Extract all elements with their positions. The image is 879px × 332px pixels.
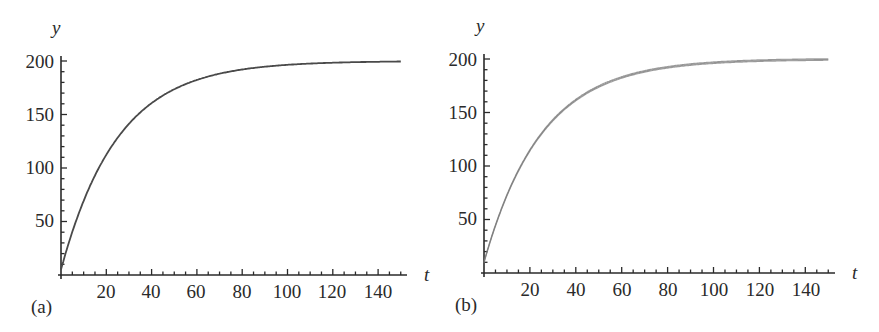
x-tick-label: 100	[273, 281, 302, 302]
figure-canvas: y t (a) 200 150 100 50 20 40 60 80 100 1…	[0, 0, 879, 332]
x-tick-label: 20	[521, 279, 540, 300]
x-tick-label: 40	[142, 281, 161, 302]
data-curve	[484, 59, 828, 263]
y-tick-label: 100	[449, 155, 478, 176]
x-tick-label: 120	[746, 279, 775, 300]
panel-a: y t (a) 200 150 100 50 20 40 60 80 100 1…	[26, 17, 431, 318]
x-tick-label: 140	[364, 281, 393, 302]
x-axis-label: t	[424, 264, 430, 285]
x-tick-label: 140	[792, 279, 821, 300]
sample-path-line	[484, 60, 828, 263]
x-tick-label: 60	[613, 279, 632, 300]
figure: y t (a) 200 150 100 50 20 40 60 80 100 1…	[0, 0, 879, 332]
x-tick-label: 80	[233, 281, 252, 302]
axes	[481, 54, 835, 277]
y-tick-label: 50	[458, 208, 477, 229]
x-tick-label: 40	[567, 279, 586, 300]
y-tick-label: 200	[26, 51, 55, 72]
sample-path-line	[484, 59, 828, 262]
panel-label: (a)	[31, 296, 52, 318]
x-tick-labels: 20 40 60 80 100 120 140	[97, 281, 393, 302]
x-tick-label: 100	[700, 279, 729, 300]
y-tick-labels: 200 150 100 50	[449, 49, 478, 229]
x-tick-label: 60	[187, 281, 206, 302]
x-axis-label: t	[852, 262, 858, 283]
x-tick-label: 80	[659, 279, 678, 300]
panel-label: (b)	[455, 294, 477, 316]
y-tick-label: 150	[26, 104, 55, 125]
sample-path-line	[484, 60, 828, 263]
panel-b: y t (b) 200 150 100 50 20 40 60 80 100 1…	[449, 15, 859, 316]
y-tick-label: 100	[26, 157, 55, 178]
y-tick-label: 50	[35, 210, 54, 231]
y-tick-label: 150	[449, 102, 478, 123]
y-axis-label: y	[474, 15, 485, 36]
y-axis-label: y	[50, 17, 61, 38]
x-tick-label: 20	[97, 281, 116, 302]
axes	[58, 56, 407, 279]
x-tick-labels: 20 40 60 80 100 120 140	[521, 279, 821, 300]
y-tick-label: 200	[449, 49, 478, 70]
x-tick-label: 120	[318, 281, 347, 302]
solution-curve-line	[61, 62, 401, 270]
data-curve	[61, 62, 401, 270]
y-tick-labels: 200 150 100 50	[26, 51, 55, 231]
